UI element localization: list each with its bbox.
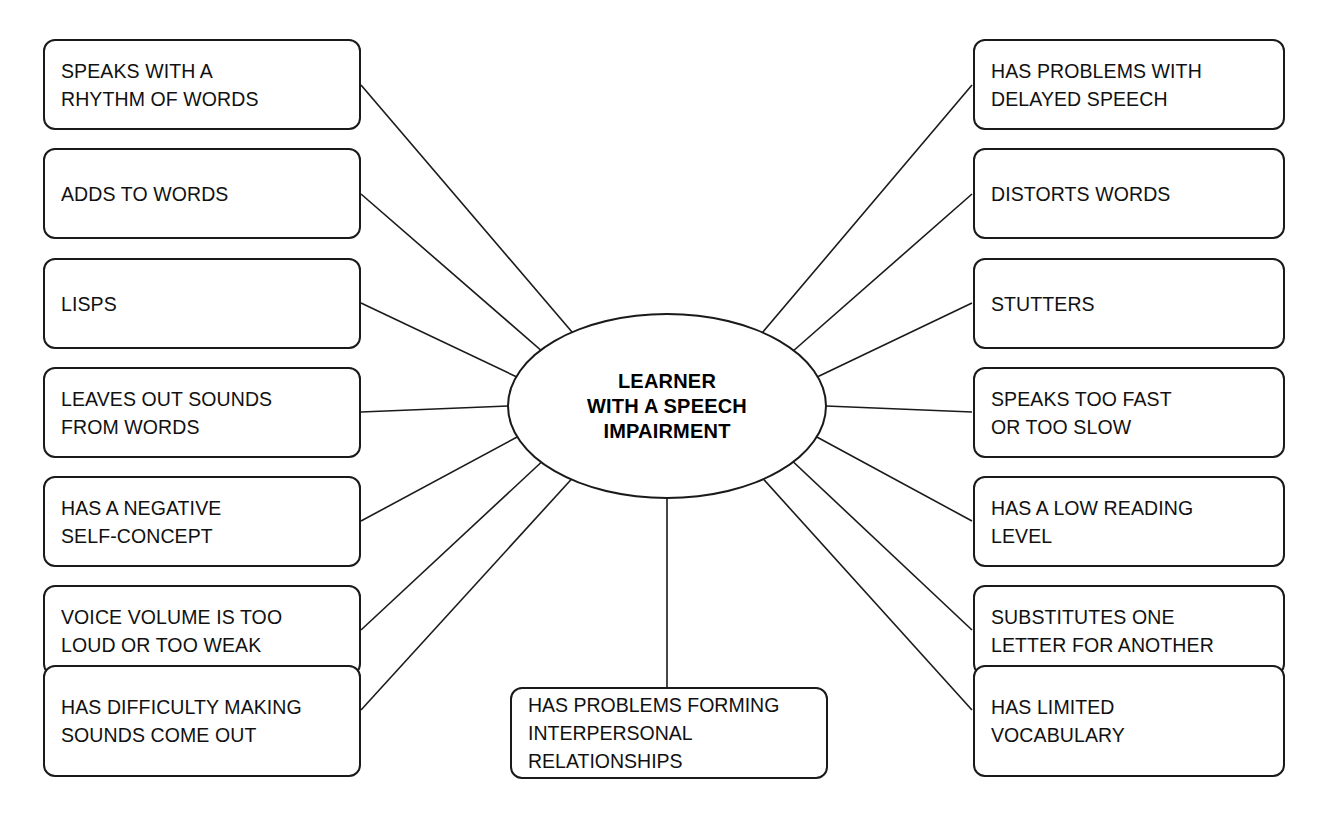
node-label: SUBSTITUTES ONE LETTER FOR ANOTHER [975,603,1230,659]
node-label: STUTTERS [975,290,1111,318]
node-has-a-negative-self-concept[interactable]: HAS A NEGATIVE SELF-CONCEPT [43,476,361,567]
node-label: HAS A NEGATIVE SELF-CONCEPT [45,494,237,550]
diagram-canvas: SPEAKS WITH A RHYTHM OF WORDS ADDS TO WO… [0,0,1323,818]
connector-left-4 [361,406,508,412]
node-lisps[interactable]: LISPS [43,258,361,349]
node-speaks-too-fast-or-too-slow[interactable]: SPEAKS TOO FAST OR TOO SLOW [973,367,1285,458]
node-label: HAS A LOW READING LEVEL [975,494,1209,550]
node-stutters[interactable]: STUTTERS [973,258,1285,349]
node-label: SPEAKS WITH A RHYTHM OF WORDS [45,57,275,113]
node-speaks-with-a-rhythm-of-words[interactable]: SPEAKS WITH A RHYTHM OF WORDS [43,39,361,130]
connector-right-7 [757,472,972,710]
connector-left-1 [361,85,578,339]
connector-left-3 [361,303,519,378]
node-label: DISTORTS WORDS [975,180,1186,208]
node-label: ADDS TO WORDS [45,180,244,208]
node-leaves-out-sounds-from-words[interactable]: LEAVES OUT SOUNDS FROM WORDS [43,367,361,458]
connector-right-3 [815,303,972,378]
connector-left-5 [361,436,519,521]
node-label: LISPS [45,290,133,318]
node-voice-volume-is-too-loud-or-too-weak[interactable]: VOICE VOLUME IS TOO LOUD OR TOO WEAK [43,585,361,676]
node-label: HAS DIFFICULTY MAKING SOUNDS COME OUT [45,693,318,749]
connector-right-2 [784,194,972,359]
node-label: HAS PROBLEMS FORMING INTERPERSONAL RELAT… [512,691,795,775]
node-has-problems-forming-interpersonal-relationships[interactable]: HAS PROBLEMS FORMING INTERPERSONAL RELAT… [510,687,828,779]
connector-left-2 [361,194,551,359]
connector-right-6 [787,456,972,630]
node-label: LEAVES OUT SOUNDS FROM WORDS [45,385,288,441]
center-node-learner-with-a-speech-impairment[interactable]: LEARNER WITH A SPEECH IMPAIRMENT [507,313,827,499]
node-adds-to-words[interactable]: ADDS TO WORDS [43,148,361,239]
connector-right-5 [815,436,972,521]
node-label: SPEAKS TOO FAST OR TOO SLOW [975,385,1188,441]
node-distorts-words[interactable]: DISTORTS WORDS [973,148,1285,239]
connector-right-1 [757,85,972,339]
connector-right-4 [826,406,972,412]
node-has-a-low-reading-level[interactable]: HAS A LOW READING LEVEL [973,476,1285,567]
node-label: HAS PROBLEMS WITH DELAYED SPEECH [975,57,1218,113]
node-label: HAS LIMITED VOCABULARY [975,693,1141,749]
node-has-problems-with-delayed-speech[interactable]: HAS PROBLEMS WITH DELAYED SPEECH [973,39,1285,130]
node-substitutes-one-letter-for-another[interactable]: SUBSTITUTES ONE LETTER FOR ANOTHER [973,585,1285,676]
node-has-difficulty-making-sounds-come-out[interactable]: HAS DIFFICULTY MAKING SOUNDS COME OUT [43,665,361,777]
node-has-limited-vocabulary[interactable]: HAS LIMITED VOCABULARY [973,665,1285,777]
node-label: VOICE VOLUME IS TOO LOUD OR TOO WEAK [45,603,298,659]
connector-left-7 [361,472,578,710]
center-node-label: LEARNER WITH A SPEECH IMPAIRMENT [587,369,747,444]
connector-left-6 [361,456,548,630]
